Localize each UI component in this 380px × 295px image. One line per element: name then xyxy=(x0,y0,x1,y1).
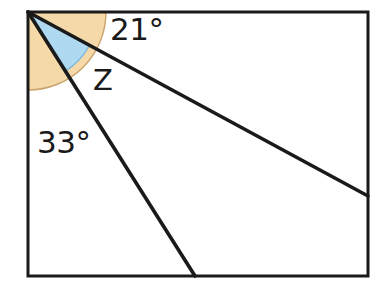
angle-label-z: Z xyxy=(93,66,112,95)
upper-ray xyxy=(28,12,368,196)
geometry-figure: 21° Z 33° xyxy=(0,0,380,295)
angle-label-33: 33° xyxy=(37,127,90,158)
angle-label-21: 21° xyxy=(110,14,163,45)
